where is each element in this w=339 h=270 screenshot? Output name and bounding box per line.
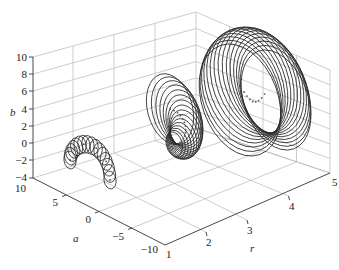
curve-family-r1: [63, 134, 118, 190]
r-axis-label: r: [250, 242, 255, 254]
b-axis-label: b: [10, 106, 16, 118]
b-tick: 4: [22, 103, 28, 115]
r-tick: 2: [206, 236, 212, 248]
grid-lines: [33, 12, 330, 232]
b-tick: 10: [16, 51, 28, 63]
b-tick: 8: [22, 68, 28, 80]
a-tick: −10: [141, 243, 159, 255]
a-axis-ticks: 10 5 0 −5 −10: [15, 182, 158, 255]
3d-plot: 10 8 6 4 2 0 −2 −4 10 5 0 −5 −10 1 2 3 4…: [0, 0, 339, 270]
a-axis-label: a: [73, 232, 79, 244]
curve-family-r5: [184, 16, 324, 167]
r-tick: 3: [247, 224, 253, 236]
r-tick: 1: [166, 248, 172, 260]
r-tick: 4: [289, 200, 295, 212]
r-tick: 5: [332, 176, 338, 188]
b-tick: 6: [22, 85, 28, 97]
b-axis-ticks: 10 8 6 4 2 0 −2 −4: [15, 51, 27, 183]
a-tick: 5: [53, 196, 59, 208]
b-tick: 2: [22, 120, 28, 132]
b-tick: 0: [22, 137, 28, 149]
b-tick: −2: [15, 154, 27, 166]
a-tick: 0: [86, 213, 92, 225]
a-tick: 10: [15, 182, 27, 194]
a-tick: −5: [112, 230, 124, 242]
